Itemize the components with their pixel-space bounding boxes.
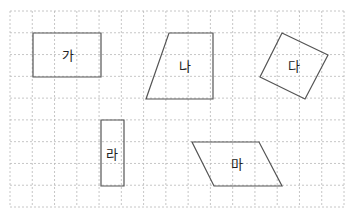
grid-diagram: 가 나 다 라 마 bbox=[0, 0, 355, 216]
grid-paper bbox=[0, 0, 355, 216]
shape-label-da: 다 bbox=[288, 60, 300, 73]
shape-label-na: 나 bbox=[179, 60, 191, 73]
shape-label-ma: 마 bbox=[231, 158, 243, 171]
shape-label-ga: 가 bbox=[62, 49, 74, 62]
shape-label-ra: 라 bbox=[106, 148, 118, 161]
